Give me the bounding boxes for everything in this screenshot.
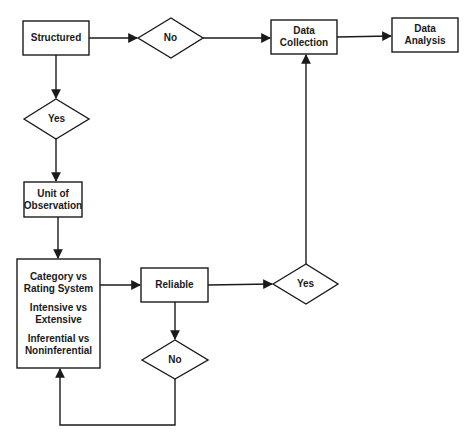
data-collection-label: Data Collection	[271, 20, 337, 54]
unit-line1: Unit of	[37, 188, 69, 200]
category-line2: Rating System	[24, 283, 93, 294]
yes-right-text: Yes	[297, 278, 314, 290]
yes-left-text: Yes	[48, 113, 65, 125]
yes-right-label: Yes	[273, 264, 338, 304]
no-top-text: No	[164, 32, 177, 44]
no-bottom-label: No	[142, 340, 208, 379]
classification-label: Category vs Rating System Intensive vs E…	[17, 259, 100, 368]
intensive-line2: Extensive	[35, 314, 82, 325]
edge-data-collection-to-analysis	[337, 36, 391, 37]
classification-item-intensive: Intensive vs Extensive	[30, 302, 87, 326]
no-top-label: No	[138, 18, 203, 58]
no-bottom-text: No	[168, 354, 181, 366]
structured-text: Structured	[31, 32, 82, 44]
edge-reliable-to-yes	[208, 284, 272, 285]
yes-left-label: Yes	[24, 99, 89, 139]
reliable-label: Reliable	[141, 268, 208, 302]
flowchart-canvas	[0, 0, 475, 443]
intensive-line1: Intensive vs	[30, 302, 87, 313]
data-analysis-line1: Data	[414, 23, 436, 35]
unit-line2: Observation	[24, 200, 82, 212]
structured-label: Structured	[23, 21, 89, 55]
reliable-text: Reliable	[155, 279, 193, 291]
category-line1: Category vs	[30, 271, 87, 282]
inferential-line2: Noninferential	[25, 345, 92, 356]
unit-of-observation-label: Unit of Observation	[24, 182, 82, 217]
inferential-line1: Inferential vs	[28, 333, 90, 344]
data-collection-line2: Collection	[280, 37, 328, 49]
data-analysis-line2: Analysis	[404, 35, 445, 47]
data-collection-line1: Data	[293, 25, 315, 37]
classification-item-category: Category vs Rating System	[24, 271, 93, 295]
classification-item-inferential: Inferential vs Noninferential	[25, 333, 92, 357]
data-analysis-label: Data Analysis	[392, 18, 458, 52]
